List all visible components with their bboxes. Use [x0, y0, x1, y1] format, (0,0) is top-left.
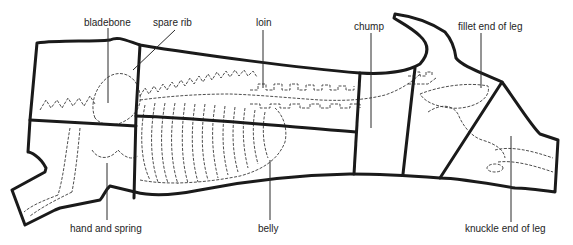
- leader-lines: [107, 28, 511, 222]
- label-chump: chump: [354, 21, 384, 33]
- label-fillet-end-of-leg: fillet end of leg: [458, 21, 523, 33]
- label-knuckle-end-of-leg: knuckle end of leg: [465, 223, 546, 235]
- cut-divisions: [30, 45, 502, 198]
- label-hand-and-spring: hand and spring: [70, 223, 142, 235]
- label-bladebone: bladebone: [84, 17, 131, 29]
- label-belly: belly: [258, 223, 279, 235]
- label-loin: loin: [256, 17, 272, 29]
- label-spare-rib: spare rib: [153, 17, 192, 29]
- pork-cuts-diagram: [0, 0, 573, 245]
